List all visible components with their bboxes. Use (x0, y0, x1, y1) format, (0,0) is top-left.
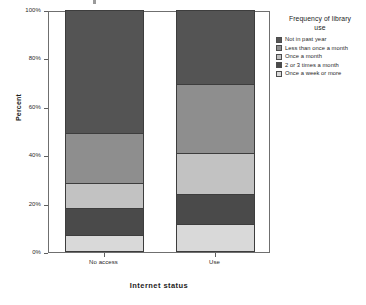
legend-swatch-once-a-week-or-more (276, 71, 282, 77)
y-axis-tick-label: 40% (29, 152, 41, 158)
bar-segment (176, 194, 255, 224)
bar-segment (176, 84, 255, 153)
y-axis-tick-label: 0% (32, 249, 41, 255)
legend-swatch-once-a-month (276, 54, 282, 60)
legend-item-label: Less than once a month (285, 45, 348, 52)
stacked-bar (65, 12, 144, 252)
x-axis-tick-label: No access (48, 259, 159, 265)
chart-container: Percent 0%20%40%60%80%100% No accessUse … (0, 0, 366, 305)
legend-item-label: 2 or 3 times a month (285, 62, 339, 69)
y-axis-title: Percent (15, 78, 22, 138)
y-axis-tick-mark (44, 253, 48, 254)
legend-swatch-less-than-once-a-month (276, 45, 282, 51)
bar-segment (65, 183, 144, 208)
legend-item: 2 or 3 times a month (276, 62, 364, 69)
y-axis-tick-label: 20% (29, 201, 41, 207)
bar-segment (176, 153, 255, 194)
bar-segment (176, 10, 255, 84)
x-axis-title: Internet status (48, 281, 270, 290)
bar-segment (176, 224, 255, 252)
y-axis-tick-label: 100% (25, 7, 41, 13)
bar-segment (65, 133, 144, 183)
legend-item-label: Once a month (285, 53, 322, 60)
legend-swatch-not-in-past-year (276, 37, 282, 43)
x-axis-tick-label: Use (159, 259, 270, 265)
legend: Frequency of library use Not in past yea… (276, 14, 364, 79)
bar-segment (65, 235, 144, 252)
bar-segment (65, 10, 144, 133)
legend-item: Once a month (276, 53, 364, 60)
x-axis-tick-mark (215, 253, 216, 257)
y-axis-tick-label: 80% (29, 55, 41, 61)
legend-item: Once a week or more (276, 70, 364, 77)
legend-title-line-1: Frequency of library (289, 15, 351, 22)
legend-item: Not in past year (276, 36, 364, 43)
x-axis-tick-mark (104, 253, 105, 257)
bar-segment (65, 208, 144, 235)
y-axis-tick-label: 60% (29, 104, 41, 110)
legend-title: Frequency of library use (276, 14, 364, 32)
clipped-title-artifact (93, 0, 96, 4)
legend-item-label: Once a week or more (285, 70, 341, 77)
legend-item-list: Not in past yearLess than once a monthOn… (276, 36, 364, 77)
plot-area (48, 11, 270, 253)
legend-item: Less than once a month (276, 45, 364, 52)
stacked-bar (176, 12, 255, 252)
legend-title-line-2: use (314, 24, 325, 31)
legend-swatch-2-or-3-times-a-month (276, 62, 282, 68)
legend-item-label: Not in past year (285, 36, 326, 43)
